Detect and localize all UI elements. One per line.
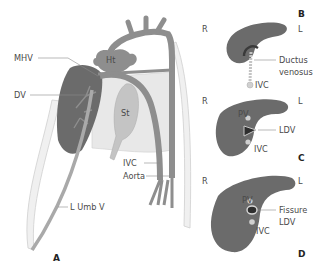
panel-c: R L PV LDV IVC C [202,96,305,163]
fetal-circulation-diagram: Ht St MHV DV IVC Aorta L Umb V A B R L [0,0,327,273]
panel-b-left: L [298,24,303,34]
panel-d-right: R [202,176,208,186]
pv-label-d: PV [242,195,253,205]
panel-d-label: D [298,249,305,259]
liver-b [227,23,287,64]
st-label: St [121,108,130,118]
ductus-venosus-b [250,52,251,82]
ivc-label-b: IVC [255,80,269,90]
ivc-label-d: IVC [256,226,270,236]
fissure-label: Fissure [279,205,307,215]
arch-branches [128,18,164,34]
panel-c-right: R [202,96,208,106]
mhv-label: MHV [14,53,33,63]
ductus-label-1: Ductus [279,55,308,65]
ivc-label: IVC [123,158,137,168]
ivc-circle-b [247,82,253,88]
ductus-label-2: venosus [279,67,313,77]
ldv-label-c: LDV [279,125,296,135]
ht-label: Ht [106,55,116,65]
ivc-circle-c [245,139,250,144]
ldv-d [247,206,257,214]
panel-c-left: L [298,96,303,106]
aorta-label: Aorta [123,171,145,181]
ldv-label-d: LDV [279,217,296,227]
iliac-branches [150,178,172,208]
panel-d-left: L [298,176,303,186]
ivc-circle-d [249,219,255,225]
panel-b-right: R [202,24,208,34]
pv-label-c: PV [238,109,249,119]
ivc-label-c: IVC [254,144,268,154]
left-body-wall [27,100,60,250]
panel-b: B R L Ductus venosus IVC [202,9,313,90]
panel-a-label: A [53,253,60,263]
panel-b-label: B [298,9,305,19]
panel-c-label: C [298,153,305,163]
panel-a: Ht St MHV DV IVC Aorta L Umb V A [14,18,191,263]
liver-c [216,99,288,156]
dv-label: DV [14,90,26,100]
panel-d: R L PV Fissure LDV IVC D [202,176,307,259]
lumbv-label: L Umb V [70,202,105,212]
